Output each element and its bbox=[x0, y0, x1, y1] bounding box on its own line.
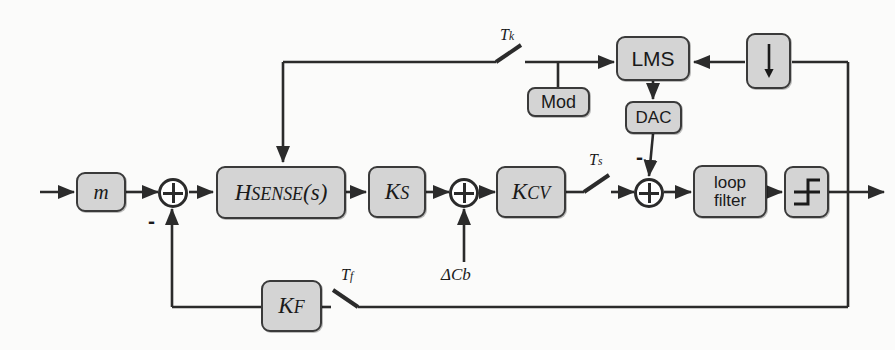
dac-block[interactable]: DAC bbox=[625, 101, 682, 134]
down-arrow-icon bbox=[761, 41, 777, 81]
hsense-h: H bbox=[235, 180, 252, 205]
sum-plus-vertical bbox=[172, 183, 175, 203]
block-diagram: m - HSENSE(s) KS ΔCb KCV Ts - bbox=[0, 0, 895, 350]
hsense-subscript: SENSE bbox=[251, 184, 303, 204]
delta-cb-label: ΔCb bbox=[441, 265, 471, 285]
kcv-k: K bbox=[512, 179, 527, 204]
dac-block-label: DAC bbox=[636, 108, 672, 128]
switch-tf-label: Tf bbox=[341, 266, 353, 284]
tf-t: T bbox=[341, 266, 350, 283]
loop-filter-line2: filter bbox=[714, 191, 746, 210]
switch-ts-label: Ts bbox=[589, 151, 602, 169]
quantizer-icon bbox=[792, 175, 822, 209]
downsampler-block[interactable] bbox=[746, 33, 791, 89]
hsense-arg: (s) bbox=[303, 180, 327, 205]
summing-junction-dac[interactable] bbox=[634, 178, 664, 208]
ts-t: T bbox=[589, 151, 598, 168]
ks-block-label: KS bbox=[385, 179, 409, 205]
quantizer-block[interactable] bbox=[784, 166, 829, 218]
hsense-block-label: HSENSE(s) bbox=[235, 180, 328, 206]
loop-filter-label: loop filter bbox=[714, 174, 746, 210]
mass-block[interactable]: m bbox=[76, 172, 126, 212]
wire-dac-to-sumdac bbox=[649, 134, 653, 176]
kf-block-label: KF bbox=[278, 293, 304, 319]
kf-block[interactable]: KF bbox=[261, 280, 322, 332]
kcv-block[interactable]: KCV bbox=[496, 166, 566, 218]
summing-junction-input[interactable] bbox=[158, 178, 188, 208]
sumcb-plus-vertical bbox=[463, 183, 466, 203]
ks-k: K bbox=[385, 179, 400, 204]
loop-filter-line1: loop bbox=[714, 173, 746, 192]
mod-block[interactable]: Mod bbox=[527, 87, 590, 117]
kcv-subscript: CV bbox=[527, 183, 550, 203]
lms-block-label: LMS bbox=[631, 47, 674, 71]
minus-sign-dac: - bbox=[636, 146, 643, 167]
tf-subscript: f bbox=[350, 270, 353, 282]
ts-subscript: s bbox=[598, 155, 602, 167]
hsense-block[interactable]: HSENSE(s) bbox=[216, 166, 346, 219]
mass-block-label: m bbox=[93, 180, 108, 205]
minus-sign-feedback: - bbox=[148, 210, 155, 231]
kf-k: K bbox=[278, 293, 293, 318]
loop-filter-block[interactable]: loop filter bbox=[693, 165, 767, 218]
switch-ts[interactable] bbox=[580, 168, 616, 200]
ks-subscript: S bbox=[400, 183, 409, 203]
sumdac-plus-vertical bbox=[648, 183, 651, 203]
lms-block[interactable]: LMS bbox=[616, 36, 690, 81]
summing-junction-delta-cb[interactable] bbox=[449, 178, 479, 208]
switch-tk[interactable] bbox=[492, 40, 526, 70]
switch-tf[interactable] bbox=[329, 284, 363, 314]
ks-block[interactable]: KS bbox=[368, 166, 426, 218]
kcv-block-label: KCV bbox=[512, 179, 550, 205]
mod-block-label: Mod bbox=[541, 92, 576, 113]
kf-subscript: F bbox=[294, 297, 305, 317]
